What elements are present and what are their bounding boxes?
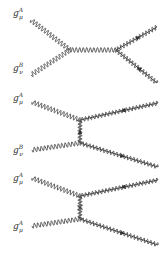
label-base: g [13,145,19,155]
incoming-gluon-1-0 [32,101,80,122]
incoming-gluon-2-1 [32,217,80,228]
label-color-index: A [19,6,23,13]
particle-label: gAμ [13,174,27,183]
incoming-gluon-1-1 [32,141,80,152]
incoming-gluon-2-0 [32,177,80,198]
label-color-index: A [19,219,23,226]
incoming-gluon-0-0 [30,20,71,51]
feynman-diagrams-canvas [0,0,167,253]
label-lorentz-index: μ [19,98,23,105]
outgoing-gluino-2-0-wave [80,178,158,198]
label-color-index: A [19,91,23,98]
label-base: g [13,8,19,18]
label-base: g [13,63,19,73]
outgoing-gluino-1-1-wave [80,142,158,169]
particle-label: gAμ [13,9,27,18]
label-base: g [13,93,19,103]
outgoing-gluino-0-1-wave [115,50,158,83]
label-lorentz-index: μ [19,13,23,20]
gluon-propagator-0 [70,48,116,53]
particle-label: gBν [13,146,27,155]
particle-label: gAμ [13,94,27,103]
label-color-index: A [19,171,23,178]
particle-label: gAμ [13,222,27,231]
outgoing-gluino-1-0-wave [80,101,158,122]
label-lorentz-index: μ [19,226,23,233]
label-lorentz-index: ν [19,68,23,75]
label-color-index: B [19,143,23,150]
outgoing-gluino-2-1-wave [80,218,158,246]
label-lorentz-index: ν [19,150,23,157]
particle-label: gBν [13,64,27,73]
label-lorentz-index: μ [19,178,23,185]
incoming-gluon-0-1 [31,48,70,76]
label-color-index: B [19,61,23,68]
label-base: g [13,221,19,231]
label-base: g [13,173,19,183]
